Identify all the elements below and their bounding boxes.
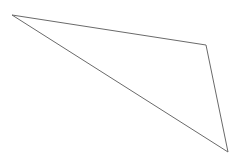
canvas-background <box>0 0 239 165</box>
drawing-canvas <box>0 0 239 165</box>
figure-svg <box>0 0 239 165</box>
